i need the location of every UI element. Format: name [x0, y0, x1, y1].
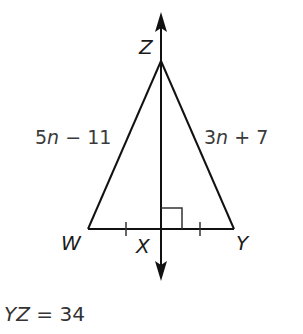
- side-label-wz: 5n − 11: [35, 128, 111, 147]
- given-value: 34: [59, 302, 84, 326]
- yz-op: +: [228, 126, 256, 148]
- vertex-label-y: Y: [236, 233, 248, 253]
- wz-const: 11: [87, 126, 111, 148]
- given-equals: =: [30, 302, 59, 326]
- wz-var: n: [47, 126, 59, 148]
- yz-var: n: [216, 126, 228, 148]
- wz-coef: 5: [35, 126, 47, 148]
- vertex-label-x: X: [136, 236, 150, 256]
- wz-op: −: [59, 126, 87, 148]
- yz-coef: 3: [204, 126, 216, 148]
- right-angle-mark: [161, 208, 182, 229]
- vertex-label-z: Z: [139, 37, 153, 57]
- given-var: YZ: [4, 302, 30, 326]
- given-statement: YZ = 34: [4, 304, 85, 324]
- vertex-label-w: W: [61, 233, 81, 253]
- yz-const: 7: [256, 126, 268, 148]
- side-label-yz: 3n + 7: [204, 128, 268, 147]
